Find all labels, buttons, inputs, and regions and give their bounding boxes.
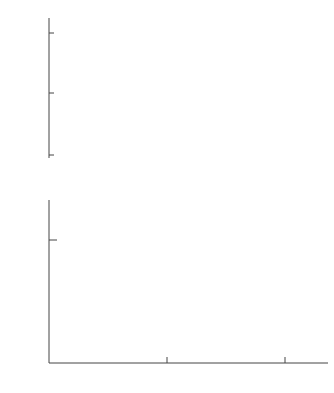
top-plot [0,0,54,158]
chart-canvas [0,0,334,393]
